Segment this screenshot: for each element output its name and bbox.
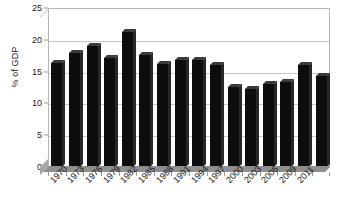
bar	[298, 65, 309, 167]
bar-side-face	[274, 81, 277, 167]
bar-side-face	[80, 50, 83, 167]
bar-front-face	[157, 64, 168, 167]
bar-side-face	[115, 55, 118, 167]
bar-front-face	[87, 46, 98, 167]
bar	[69, 53, 80, 167]
bar-side-face	[239, 84, 242, 167]
bar-side-face	[98, 43, 101, 167]
bar-front-face	[210, 65, 221, 167]
bar-front-face	[175, 60, 186, 167]
y-tick-label: 15	[18, 67, 42, 77]
bar	[280, 82, 291, 167]
bar	[316, 76, 327, 167]
bar	[122, 32, 133, 167]
bar-chart: % of GDP 0510152025 19701973197619791982…	[0, 0, 345, 223]
bar-front-face	[245, 89, 256, 167]
bar-side-face	[133, 29, 136, 167]
y-tick-label: 0	[18, 162, 42, 172]
y-tick-label: 20	[18, 35, 42, 45]
bar-front-face	[263, 84, 274, 167]
bar-side-face	[327, 73, 330, 167]
bar	[263, 84, 274, 167]
bar-side-face	[256, 86, 259, 167]
bar	[51, 63, 62, 167]
bar	[210, 65, 221, 167]
bar-side-face	[150, 52, 153, 167]
bar	[87, 46, 98, 167]
bar	[104, 58, 115, 167]
y-tick-label: 5	[18, 130, 42, 140]
bar	[175, 60, 186, 167]
bar-front-face	[228, 87, 239, 167]
bar-side-face	[186, 57, 189, 167]
bar-front-face	[316, 76, 327, 167]
bar	[192, 60, 203, 167]
bar-front-face	[280, 82, 291, 167]
bar-side-face	[203, 57, 206, 167]
bar	[139, 55, 150, 167]
bars-layer	[48, 8, 330, 167]
bar-side-face	[168, 61, 171, 167]
bar	[245, 89, 256, 167]
bar-front-face	[51, 63, 62, 167]
bar-side-face	[291, 79, 294, 167]
bar-front-face	[69, 53, 80, 167]
bar-front-face	[192, 60, 203, 167]
bar-side-face	[62, 60, 65, 167]
bar-side-face	[221, 62, 224, 167]
bar	[157, 64, 168, 167]
bar-front-face	[298, 65, 309, 167]
y-axis-ticks: 0510152025	[18, 0, 42, 223]
bar-front-face	[104, 58, 115, 167]
y-tick-label: 10	[18, 98, 42, 108]
bar-front-face	[122, 32, 133, 167]
bar-front-face	[139, 55, 150, 167]
x-axis-labels: 1970197319761979198219851988199119941997…	[48, 176, 345, 223]
bar-side-face	[309, 62, 312, 167]
y-tick-label: 25	[18, 3, 42, 13]
bar	[228, 87, 239, 167]
